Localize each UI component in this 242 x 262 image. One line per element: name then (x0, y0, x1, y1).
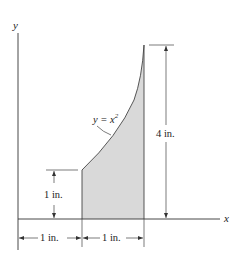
dim-height-left-label: 1 in. (44, 189, 63, 200)
curve-label-leader (97, 126, 111, 135)
dim-width-first-label: 1 in. (40, 232, 59, 243)
y-axis-label: y (12, 19, 18, 31)
curve-label: y = x2 (92, 112, 119, 125)
dim-height-right-label: 4 in. (156, 128, 175, 139)
area-under-curve-diagram: y x y = x2 1 in. 4 in. 1 in. 1 in. (0, 0, 242, 262)
shaded-area (82, 45, 144, 219)
x-axis-label: x (223, 212, 229, 224)
dim-width-second-label: 1 in. (102, 232, 121, 243)
